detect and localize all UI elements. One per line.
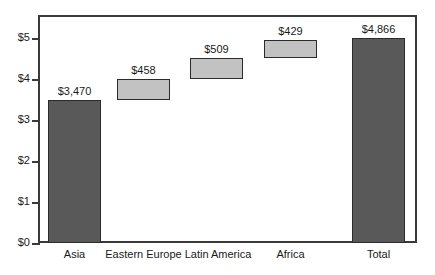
- bar-latin-america[interactable]: [190, 58, 243, 79]
- bar-africa[interactable]: [264, 40, 317, 58]
- y-tick-label-2: $2: [4, 155, 30, 166]
- x-label-total: Total: [346, 249, 411, 260]
- y-tick-4: [32, 79, 40, 81]
- bar-value-asia: $3,470: [44, 86, 105, 97]
- x-label-africa: Africa: [256, 249, 325, 260]
- y-tick-label-1: $1: [4, 196, 30, 207]
- x-label-latin-america: Latin America: [178, 249, 258, 260]
- bar-eastern-europe[interactable]: [117, 79, 170, 100]
- y-tick-5: [32, 38, 40, 40]
- bar-value-africa: $429: [260, 26, 321, 37]
- y-tick-label-0: $0: [4, 237, 30, 248]
- waterfall-chart: $5 $4 $3 $2 $1 $0 $3,470 $458 $509 $429 …: [0, 0, 435, 275]
- y-tick-3: [32, 120, 40, 122]
- y-tick-0: [32, 243, 40, 245]
- bar-value-eastern-europe: $458: [113, 65, 174, 76]
- bar-asia[interactable]: [48, 100, 101, 243]
- y-tick-label-3: $3: [4, 114, 30, 125]
- y-tick-1: [32, 202, 40, 204]
- x-label-asia: Asia: [42, 249, 107, 260]
- y-tick-label-4: $4: [4, 73, 30, 84]
- bar-value-latin-america: $509: [186, 44, 247, 55]
- bar-total[interactable]: [352, 38, 405, 243]
- y-tick-2: [32, 161, 40, 163]
- bar-value-total: $4,866: [345, 24, 412, 35]
- y-tick-label-5: $5: [4, 32, 30, 43]
- x-label-eastern-europe: Eastern Europe: [101, 249, 186, 260]
